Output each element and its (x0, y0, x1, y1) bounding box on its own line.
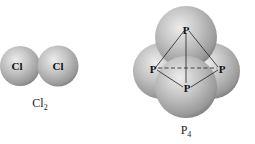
molecule-diagram: Cl Cl Cl2 P P P P P4 (0, 0, 255, 144)
cl2-caption-base: Cl (32, 96, 44, 110)
p-atom-label-top: P (183, 24, 190, 36)
cl-atom-label-right: Cl (53, 60, 64, 72)
p-atom-label-bottom: P (184, 82, 191, 94)
cl2-caption: Cl2 (32, 96, 47, 112)
cl-atom-label-left: Cl (12, 60, 23, 72)
p4-molecule: P P P P P4 (133, 6, 240, 139)
p-atom-label-left: P (150, 63, 157, 75)
cl2-caption-subscript: 2 (44, 103, 48, 112)
p4-caption-subscript: 4 (187, 130, 191, 139)
cl2-molecule: Cl Cl Cl2 (0, 46, 79, 113)
p-atom-label-right: P (219, 63, 226, 75)
p4-caption: P4 (181, 123, 192, 139)
